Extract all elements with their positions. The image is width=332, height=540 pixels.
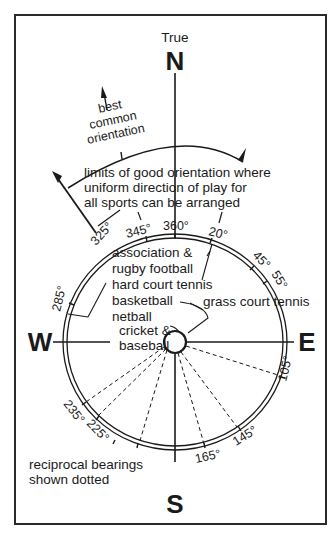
sport-hard-court-tennis: hard court tennis [112, 277, 213, 292]
bearing-165: 165° [194, 447, 222, 466]
south-label: S [166, 489, 183, 519]
sport-basketball: basketball [112, 293, 173, 308]
east-label: E [298, 327, 315, 357]
bearing-225: 225° [84, 416, 112, 444]
limits-text-1: limits of good orientation where [84, 165, 271, 180]
bearing-45: 45° [250, 248, 273, 271]
north-label: N [166, 46, 185, 76]
west-label: W [28, 327, 53, 357]
leader-20 [219, 212, 222, 223]
bearing-105: 105° [275, 354, 295, 382]
bearing-345: 345° [124, 221, 152, 241]
bearing-235: 235° [61, 397, 88, 426]
limits-text-3: all sports can be arranged [84, 195, 240, 210]
reciprocal-note-2: shown dotted [29, 472, 109, 487]
sport-netball: netball [112, 309, 152, 324]
sport-grass-court-tennis: grass court tennis [203, 294, 310, 309]
compass-diagram: True N S E W best common orientation lim… [0, 0, 332, 540]
leader-rugby-20 [202, 244, 212, 280]
bearing-325: 325° [88, 219, 116, 248]
sport-baseball: baseball [119, 338, 169, 353]
limits-text-2: uniform direction of play for [84, 180, 247, 195]
best-orientation-tick [121, 152, 122, 159]
leader-345 [138, 212, 141, 220]
limit-right-arrowhead [238, 148, 246, 162]
true-label: True [161, 30, 188, 45]
bearing-285: 285° [49, 284, 69, 312]
best-arrow-head [101, 86, 107, 98]
reciprocal-note-1: reciprocal bearings [29, 457, 143, 472]
bearing-145: 145° [230, 423, 259, 449]
leader-hard-court [88, 283, 106, 317]
bearing-360: 360° [163, 219, 189, 233]
sport-rugby: rugby football [112, 261, 193, 276]
sport-cricket: cricket & [119, 323, 171, 338]
sport-association: association & [112, 245, 192, 260]
